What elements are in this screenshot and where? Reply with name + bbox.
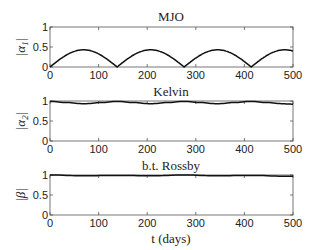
y-tick-label: 0.5 — [33, 115, 48, 127]
x-tick-label: 0 — [47, 217, 53, 229]
x-tick-label: 100 — [89, 143, 107, 155]
x-tick-label: 500 — [284, 217, 302, 229]
x-tick-label: 300 — [187, 69, 205, 81]
figure: MJO |α1| 00.510100200300400500 Kelvin |α… — [0, 0, 316, 250]
y-tick-label: 1 — [42, 169, 48, 181]
panel-title-mjo: MJO — [158, 9, 184, 24]
x-tick-label: 100 — [89, 217, 107, 229]
panel-mjo: MJO |α1| 00.510100200300400500 — [13, 9, 302, 81]
y-tick-label: 1 — [42, 21, 48, 33]
x-tick-label: 200 — [138, 143, 156, 155]
y-tick-label: 0.5 — [33, 41, 48, 53]
x-axis-label: t (days) — [151, 231, 190, 246]
x-tick-label: 300 — [187, 143, 205, 155]
x-tick-label: 500 — [284, 69, 302, 81]
x-tick-label: 500 — [284, 143, 302, 155]
x-tick-label: 200 — [138, 217, 156, 229]
x-tick-label: 0 — [47, 69, 53, 81]
svg-text:|α1|: |α1| — [13, 38, 30, 56]
y-axis-label-kelvin: |α2| — [13, 112, 30, 130]
y-tick-label: 0.5 — [33, 189, 48, 201]
panel-title-kelvin: Kelvin — [153, 84, 189, 99]
y-axis-label-bt-rossby: |β| — [13, 188, 28, 202]
curve-beta — [50, 175, 293, 176]
curve-alpha1 — [50, 50, 293, 67]
curve-alpha2 — [50, 101, 293, 104]
x-tick-label: 300 — [187, 217, 205, 229]
svg-text:|α2|: |α2| — [13, 112, 30, 130]
x-tick-label: 0 — [47, 143, 53, 155]
axes-box-kelvin — [50, 101, 293, 141]
x-tick-label: 100 — [89, 69, 107, 81]
x-tick-label: 200 — [138, 69, 156, 81]
panel-kelvin: Kelvin |α2| 00.510100200300400500 — [13, 84, 302, 155]
x-tick-label: 400 — [235, 143, 253, 155]
x-tick-label: 400 — [235, 69, 253, 81]
x-tick-label: 400 — [235, 217, 253, 229]
panel-bt-rossby: b.t. Rossby |β| 00.510100200300400500 t … — [13, 158, 302, 246]
y-axis-label-mjo: |α1| — [13, 38, 30, 56]
panel-title-bt-rossby: b.t. Rossby — [142, 158, 201, 173]
axes-box-bt-rossby — [50, 175, 293, 215]
y-tick-label: 1 — [42, 95, 48, 107]
axes-box-mjo — [50, 27, 293, 67]
svg-text:|β|: |β| — [13, 188, 28, 202]
